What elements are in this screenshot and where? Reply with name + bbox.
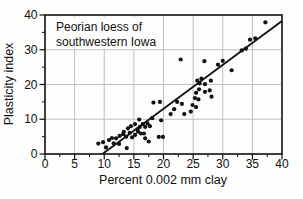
data-point — [158, 100, 162, 104]
x-axis-title: Percent 0.002 mm clay — [99, 173, 228, 187]
x-tick-label: 35 — [246, 157, 260, 171]
data-point — [197, 87, 201, 91]
data-point — [203, 82, 207, 86]
data-point — [175, 100, 179, 104]
x-tick-label: 15 — [127, 157, 141, 171]
data-point — [202, 59, 206, 63]
data-point — [104, 145, 108, 149]
data-point — [189, 110, 193, 114]
data-point — [157, 135, 161, 139]
data-point — [110, 136, 114, 140]
x-tick-label: 40 — [275, 157, 289, 171]
data-point — [147, 139, 151, 143]
data-point — [196, 97, 200, 101]
data-point — [179, 57, 183, 61]
scatter-plot-figure: Peorian loess of southwestern Iowa 05101… — [0, 0, 303, 199]
y-tick-label: 10 — [24, 112, 38, 126]
data-point — [263, 20, 267, 24]
annotation-line-2: southwestern Iowa — [56, 35, 156, 49]
data-point — [180, 102, 184, 106]
x-tick-label: 30 — [216, 157, 230, 171]
data-point — [142, 131, 146, 135]
data-point — [182, 112, 186, 116]
data-point — [161, 135, 165, 139]
data-point — [209, 95, 213, 99]
data-point — [129, 124, 133, 128]
annotation-line-1: Peorian loess of — [56, 20, 143, 34]
data-point — [128, 131, 132, 135]
data-point — [195, 79, 199, 83]
data-point — [240, 48, 244, 52]
data-point — [253, 36, 257, 40]
data-point — [124, 135, 128, 139]
x-tick-label: 25 — [186, 157, 200, 171]
plot-canvas: Peorian loess of southwestern Iowa 05101… — [0, 0, 303, 199]
data-point — [96, 141, 100, 145]
annotation: Peorian loess of southwestern Iowa — [48, 17, 156, 49]
y-axis-title: Plasticity index — [2, 42, 16, 125]
y-tick-label: 20 — [24, 78, 38, 92]
data-point — [172, 107, 176, 111]
data-point — [148, 124, 152, 128]
data-point — [190, 103, 194, 107]
data-point — [125, 146, 129, 150]
data-point — [199, 76, 203, 80]
data-point — [216, 63, 220, 67]
data-point — [194, 91, 198, 95]
data-point — [208, 88, 212, 92]
data-point — [209, 79, 213, 83]
y-tick-label: 40 — [24, 8, 38, 22]
data-point — [194, 105, 198, 109]
data-point — [230, 68, 234, 72]
data-point — [114, 136, 118, 140]
x-tick-label: 0 — [42, 157, 49, 171]
data-point — [248, 38, 252, 42]
data-point — [117, 142, 121, 146]
x-tick-label: 20 — [157, 157, 171, 171]
data-point — [101, 140, 105, 144]
data-point — [118, 134, 122, 138]
data-point — [151, 100, 155, 104]
x-tick-label: 5 — [71, 157, 78, 171]
y-tick-label: 0 — [31, 147, 38, 161]
data-point — [203, 90, 207, 94]
data-point — [143, 136, 147, 140]
data-point — [133, 122, 137, 126]
data-point — [244, 47, 248, 51]
data-point — [150, 116, 154, 120]
y-tick-label: 30 — [24, 43, 38, 57]
data-point — [122, 130, 126, 134]
data-point — [137, 117, 141, 121]
data-point — [169, 112, 173, 116]
data-point — [112, 141, 116, 145]
data-point — [221, 59, 225, 63]
data-point — [133, 133, 137, 137]
data-point — [159, 118, 163, 122]
data-point — [143, 125, 147, 129]
x-tick-label: 10 — [98, 157, 112, 171]
